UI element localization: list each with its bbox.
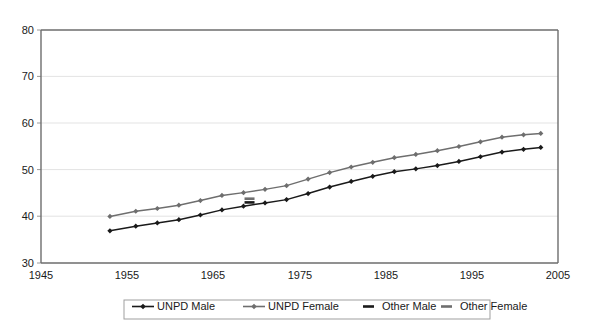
x-tick-label: 1975 — [288, 269, 312, 281]
y-tick-label: 50 — [22, 164, 34, 176]
y-tick-label: 70 — [22, 70, 34, 82]
legend-label: UNPD Female — [268, 300, 339, 312]
legend-label: Other Male — [382, 300, 436, 312]
y-tick-label: 30 — [22, 257, 34, 269]
chart-background — [0, 0, 607, 331]
x-tick-label: 1995 — [460, 269, 484, 281]
chart-legend: UNPD MaleUNPD FemaleOther MaleOther Fema… — [124, 300, 527, 319]
legend-items: UNPD MaleUNPD FemaleOther MaleOther Fema… — [132, 300, 527, 312]
x-tick-label: 1985 — [374, 269, 398, 281]
y-tick-label: 40 — [22, 210, 34, 222]
line-chart: 80 70 60 50 40 30 1945 1955 1965 — [0, 0, 607, 331]
legend-label: Other Female — [460, 300, 527, 312]
legend-label: UNPD Male — [157, 300, 215, 312]
x-tick-label: 1945 — [29, 269, 53, 281]
x-tick-label: 1955 — [115, 269, 139, 281]
x-tick-label: 1965 — [201, 269, 225, 281]
y-tick-label: 80 — [22, 24, 34, 36]
y-tick-label: 60 — [22, 117, 34, 129]
x-tick-label: 2005 — [546, 269, 570, 281]
chart-container: 80 70 60 50 40 30 1945 1955 1965 — [0, 0, 607, 331]
